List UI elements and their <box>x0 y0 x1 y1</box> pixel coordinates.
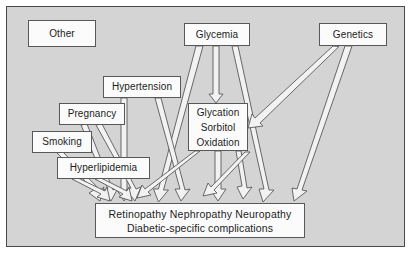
node-hypertension[interactable]: Hypertension <box>103 76 181 98</box>
node-outcome-line-1: Retinopathy Nephropathy Neuropathy <box>108 207 291 221</box>
node-other-label: Other <box>49 28 75 40</box>
node-smoking-label: Smoking <box>42 136 82 148</box>
node-metabolic-line-2: Sorbitol <box>201 120 236 135</box>
node-metabolic-line-3: Oxidation <box>196 135 239 150</box>
node-smoking[interactable]: Smoking <box>32 131 92 153</box>
node-pregnancy-label: Pregnancy <box>68 108 117 120</box>
node-other[interactable]: Other <box>28 20 96 47</box>
node-outcome-complications[interactable]: Retinopathy Nephropathy Neuropathy Diabe… <box>95 203 305 238</box>
node-outcome-line-2: Diabetic-specific complications <box>127 221 273 235</box>
node-genetics-label: Genetics <box>333 29 373 41</box>
node-hypertension-label: Hypertension <box>112 81 172 93</box>
node-hyperlipidemia[interactable]: Hyperlipidemia <box>57 157 150 179</box>
node-hyperlipidemia-label: Hyperlipidemia <box>70 162 138 174</box>
node-glycemia[interactable]: Glycemia <box>184 23 250 46</box>
node-genetics[interactable]: Genetics <box>319 23 387 46</box>
node-pregnancy[interactable]: Pregnancy <box>59 103 125 125</box>
node-glycemia-label: Glycemia <box>196 29 238 41</box>
node-metabolic-mechanisms[interactable]: Glycation Sorbitol Oxidation <box>188 103 248 151</box>
figure-canvas: .arrow { fill: #f2f2f2; stroke: #595959;… <box>0 0 419 256</box>
node-metabolic-line-1: Glycation <box>197 105 240 120</box>
